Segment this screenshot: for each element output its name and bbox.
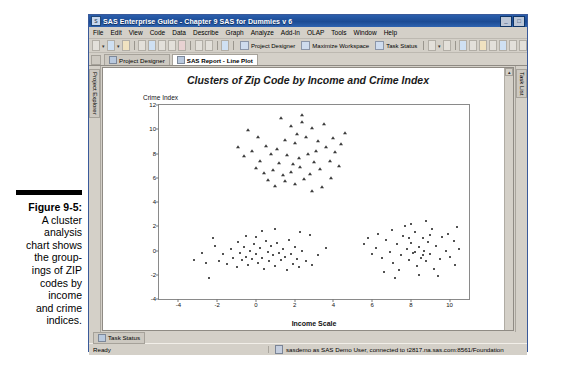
title-bar[interactable]: S SAS Enterprise Guide - Chapter 9 SAS f… [89,15,527,27]
scroll-up-icon[interactable]: ▴ [505,68,513,76]
tab-sas-report-line-plot[interactable]: SAS Report - Line Plot [172,54,258,65]
properties-icon[interactable] [489,40,497,51]
minimize-button[interactable]: _ [500,16,512,27]
x-tick-label: 2 [293,299,296,308]
print-icon[interactable] [138,40,146,51]
data-point [236,146,240,149]
data-point [257,262,259,264]
data-point [437,275,439,277]
menu-item-graph[interactable]: Graph [226,29,244,36]
data-point [254,166,258,169]
menu-item-code[interactable]: Code [150,29,166,36]
data-point [333,150,337,153]
refresh-icon[interactable] [221,40,229,51]
save-icon[interactable] [122,40,130,51]
preview-icon[interactable] [148,40,156,51]
caption-line-4: ings of ZIP [32,264,82,276]
publish-icon[interactable] [469,40,477,51]
menu-item-view[interactable]: View [129,29,143,36]
tab-sas-report-label: SAS Report - Line Plot [187,57,253,64]
menu-bar: File Edit View Code Data Describe Graph … [89,27,527,39]
data-point [268,260,270,262]
menu-item-window[interactable]: Window [354,29,377,36]
menu-item-analyze[interactable]: Analyze [251,29,274,36]
maximize-button[interactable]: □ [513,16,525,27]
maximize-workspace-button[interactable]: Maximize Workspace [299,41,371,51]
menu-item-edit[interactable]: Edit [110,29,121,36]
data-point [261,257,263,259]
menu-item-data[interactable]: Data [172,29,186,36]
tab-list-icon[interactable] [91,55,101,65]
data-point [408,237,410,239]
data-point [255,236,257,238]
data-point [339,142,343,145]
data-point [285,153,289,156]
data-point [272,254,274,256]
data-point [377,233,379,235]
data-point [425,260,427,262]
open-icon[interactable] [107,40,115,51]
data-point [314,149,318,152]
data-point [310,126,314,129]
run-dropdown-icon[interactable]: ▾ [438,43,441,49]
data-point [242,154,246,157]
data-point [218,260,220,262]
menu-item-olap[interactable]: OLAP [307,29,324,36]
menu-item-file[interactable]: File [93,29,103,36]
menu-item-help[interactable]: Help [384,29,397,36]
window-title: SAS Enterprise Guide - Chapter 9 SAS for… [103,18,292,25]
tab-project-designer[interactable]: Project Designer [104,54,170,65]
new-dropdown-icon[interactable]: ▾ [102,43,105,49]
schedule-icon[interactable] [479,40,487,51]
undo-icon[interactable] [195,40,203,51]
data-point [302,177,306,180]
new-icon[interactable] [92,40,100,51]
project-designer-button[interactable]: Project Designer [238,41,297,51]
data-point [277,161,281,164]
sidebar-item-project-explorer[interactable]: Project Explorer [89,69,100,118]
export-icon[interactable] [459,40,467,51]
data-point [310,189,314,192]
data-point [385,239,387,241]
task-status-button[interactable]: Task Status [373,41,419,51]
document-scrollbar[interactable]: ▴ [504,68,513,330]
data-point [363,243,365,245]
data-point [329,176,333,179]
data-point [433,268,435,270]
menu-item-addin[interactable]: Add-In [281,29,300,36]
data-point [429,253,431,255]
caption-line-6: income [48,289,82,301]
delete-icon[interactable] [178,40,186,51]
data-point [208,277,210,279]
data-point [271,169,275,172]
cut-icon[interactable] [158,40,166,51]
sidebar-item-task-list[interactable]: Task List [516,69,527,98]
options-icon[interactable] [509,40,517,51]
copy-icon[interactable] [168,40,176,51]
x-tick-label: 8 [409,299,412,308]
data-point [435,245,437,247]
data-point [239,252,241,254]
data-point [337,164,341,167]
more-icon[interactable] [519,40,527,51]
bottom-tab-task-status[interactable]: Task Status [93,332,145,344]
data-point [381,257,383,259]
data-point [245,235,247,237]
data-point [320,186,324,189]
run-icon[interactable] [428,40,436,51]
redo-icon[interactable] [205,40,213,51]
data-point [296,258,298,260]
caption-line-7: and crime [36,302,82,314]
data-point [300,113,304,116]
left-rail: Project Explorer [89,66,101,332]
stop-icon[interactable] [443,40,451,51]
menu-item-tools[interactable]: Tools [331,29,346,36]
help-icon[interactable] [499,40,507,51]
open-dropdown-icon[interactable]: ▾ [117,43,120,49]
menu-item-describe[interactable]: Describe [193,29,219,36]
task-status-tab-icon [98,334,106,342]
data-point [201,252,203,254]
data-point [416,265,418,267]
data-point [289,170,293,173]
y-tick-label: 2 [153,223,159,229]
